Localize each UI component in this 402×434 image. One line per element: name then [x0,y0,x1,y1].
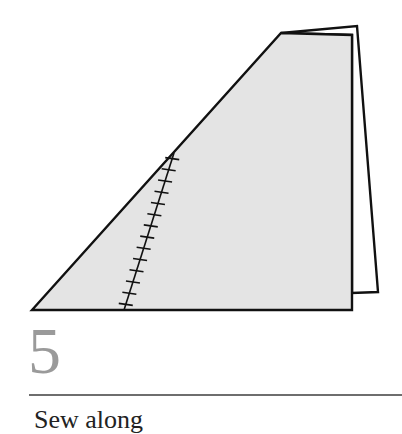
step-number: 5 [28,318,61,384]
front-panel [32,33,352,310]
step-caption: Sew along [34,407,143,433]
divider [29,394,402,396]
